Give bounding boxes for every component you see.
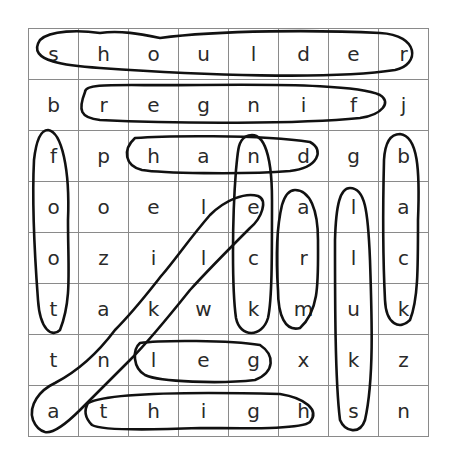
grid-cell[interactable]: g — [229, 335, 279, 386]
grid-cell[interactable]: t — [29, 335, 79, 386]
word-search-puzzle: shoulderbregnifjfphandgbooelealaozilcrlc… — [0, 0, 455, 461]
grid-cell[interactable]: g — [179, 80, 229, 131]
grid-cell[interactable]: f — [329, 80, 379, 131]
grid-cell[interactable]: o — [129, 29, 179, 80]
grid-cell[interactable]: a — [279, 182, 329, 233]
grid-cell[interactable]: i — [179, 386, 229, 437]
grid-cell[interactable]: s — [329, 386, 379, 437]
grid-cell[interactable]: a — [179, 131, 229, 182]
grid-cell[interactable]: k — [229, 284, 279, 335]
grid-cell[interactable]: o — [29, 182, 79, 233]
grid-cell[interactable]: r — [379, 29, 429, 80]
grid-cell[interactable]: j — [379, 80, 429, 131]
grid-cell[interactable]: i — [129, 233, 179, 284]
grid-cell[interactable]: e — [129, 80, 179, 131]
grid-cell[interactable]: i — [279, 80, 329, 131]
grid-cell[interactable]: l — [229, 29, 279, 80]
grid-cell[interactable]: z — [379, 335, 429, 386]
grid-cell[interactable]: l — [129, 335, 179, 386]
grid-cell[interactable]: b — [29, 80, 79, 131]
letter-grid: shoulderbregnifjfphandgbooelealaozilcrlc… — [28, 28, 429, 437]
grid-cell[interactable]: r — [79, 80, 129, 131]
grid-cell[interactable]: e — [229, 182, 279, 233]
grid-cell[interactable]: n — [229, 80, 279, 131]
grid-cell[interactable]: n — [379, 386, 429, 437]
grid-cell[interactable]: a — [29, 386, 79, 437]
grid-cell[interactable]: z — [79, 233, 129, 284]
grid-cell[interactable]: l — [179, 233, 229, 284]
grid-cell[interactable]: h — [129, 131, 179, 182]
grid-cell[interactable]: r — [279, 233, 329, 284]
grid-cell[interactable]: e — [129, 182, 179, 233]
grid-cell[interactable]: e — [329, 29, 379, 80]
grid-cell[interactable]: e — [179, 335, 229, 386]
grid-cell[interactable]: o — [29, 233, 79, 284]
grid-cell[interactable]: h — [79, 29, 129, 80]
grid-cell[interactable]: m — [279, 284, 329, 335]
grid-cell[interactable]: l — [329, 233, 379, 284]
grid-cell[interactable]: g — [329, 131, 379, 182]
grid-cell[interactable]: n — [79, 335, 129, 386]
grid-cell[interactable]: l — [329, 182, 379, 233]
grid-cell[interactable]: l — [179, 182, 229, 233]
grid-cell[interactable]: a — [379, 182, 429, 233]
grid-cell[interactable]: u — [179, 29, 229, 80]
grid-cell[interactable]: d — [279, 131, 329, 182]
grid-cell[interactable]: k — [129, 284, 179, 335]
grid-cell[interactable]: k — [379, 284, 429, 335]
grid-cell[interactable]: h — [129, 386, 179, 437]
grid-cell[interactable]: t — [79, 386, 129, 437]
grid-cell[interactable]: g — [229, 386, 279, 437]
grid-cell[interactable]: n — [229, 131, 279, 182]
grid-cell[interactable]: s — [29, 29, 79, 80]
grid-cell[interactable]: w — [179, 284, 229, 335]
grid-cell[interactable]: d — [279, 29, 329, 80]
grid-cell[interactable]: k — [329, 335, 379, 386]
grid-cell[interactable]: a — [79, 284, 129, 335]
grid-cell[interactable]: o — [79, 182, 129, 233]
grid-cell[interactable]: u — [329, 284, 379, 335]
grid-cell[interactable]: c — [379, 233, 429, 284]
grid-cell[interactable]: x — [279, 335, 329, 386]
grid-cell[interactable]: b — [379, 131, 429, 182]
grid-cell[interactable]: c — [229, 233, 279, 284]
grid-cell[interactable]: f — [29, 131, 79, 182]
grid-cell[interactable]: p — [79, 131, 129, 182]
grid-cell[interactable]: h — [279, 386, 329, 437]
grid-cell[interactable]: t — [29, 284, 79, 335]
